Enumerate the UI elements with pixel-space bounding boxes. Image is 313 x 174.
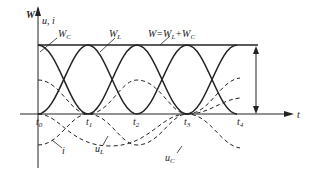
tick-t3: t3 <box>184 117 190 129</box>
tick-t1: t1 <box>86 117 92 129</box>
label-uc: uC <box>165 153 175 165</box>
label-wc: WC <box>58 29 71 41</box>
tick-t4: t4 <box>237 117 243 129</box>
axis-label-t: t <box>297 110 300 120</box>
label-w-total: W=WL+WC <box>148 29 195 41</box>
axis-label-ui: u, i <box>42 16 55 26</box>
capacitor-energy-curve <box>38 45 237 114</box>
i-leader-line <box>52 140 62 148</box>
tick-t0: t0 <box>36 117 42 129</box>
waveform-plot <box>0 0 313 174</box>
uc-leader-line <box>177 146 182 153</box>
horizontal-axis-arrow-icon <box>284 111 294 117</box>
label-wl: WL <box>109 29 121 41</box>
amplitude-arrow-up-icon <box>253 46 259 54</box>
amplitude-arrow-down-icon <box>253 106 259 114</box>
vertical-axis-arrow-icon <box>35 6 41 16</box>
label-i: i <box>62 146 65 156</box>
tick-t2: t2 <box>133 117 139 129</box>
inductor-energy-curve <box>38 45 237 114</box>
lc-energy-waveform-diagram: W u, i t WC WL W=WL+WC t0 t1 t2 t3 t4 i … <box>0 0 313 174</box>
label-ul: uL <box>95 144 104 156</box>
axis-label-w: W <box>26 10 35 20</box>
